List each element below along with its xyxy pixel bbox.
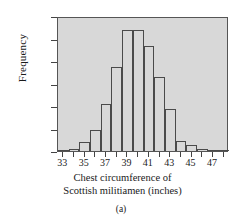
histogram-bar — [176, 141, 187, 151]
y-axis-title: Frequency — [16, 3, 28, 113]
histogram-bar — [197, 149, 208, 151]
histogram-bar — [133, 30, 144, 151]
histogram-bar — [90, 130, 101, 151]
x-axis-title-line-2: Scottish militiamen (inches) — [20, 184, 225, 197]
histogram-bar — [208, 150, 219, 151]
plot-area — [57, 17, 228, 152]
histogram-bar — [79, 142, 90, 151]
histogram-bar — [218, 150, 229, 151]
histogram-bar — [186, 145, 197, 151]
x-axis-tick-label: 47 — [200, 157, 224, 168]
panel-caption: (a) — [0, 204, 242, 214]
x-axis-title: Chest circumference of Scottish militiam… — [20, 171, 225, 197]
histogram-bar — [58, 150, 69, 151]
histogram-bar — [101, 104, 112, 151]
histogram-bar — [144, 46, 155, 151]
histogram-bar — [154, 77, 165, 151]
histogram-bar — [111, 67, 122, 151]
histogram-bars — [58, 18, 227, 151]
histogram-figure: Frequency 02004006008001,0001,200 333537… — [0, 0, 242, 220]
histogram-bar — [69, 149, 80, 151]
histogram-bar — [122, 30, 133, 151]
y-axis-tick — [51, 152, 57, 153]
histogram-bar — [165, 109, 176, 151]
x-axis-title-line-1: Chest circumference of — [20, 171, 225, 184]
